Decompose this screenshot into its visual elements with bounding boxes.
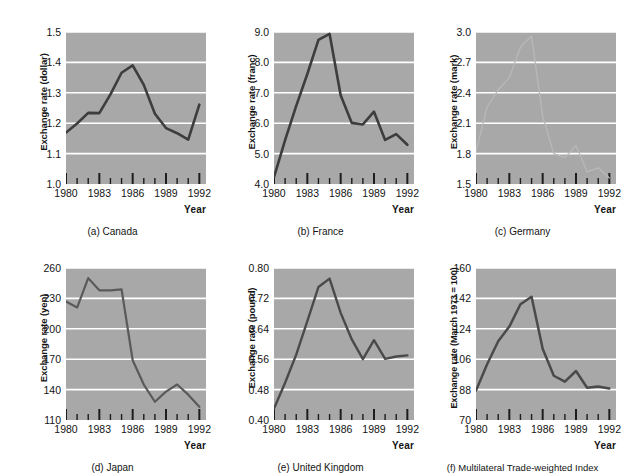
chart-canvas	[274, 268, 414, 420]
y-tick-label: 0.64	[249, 324, 269, 334]
x-axis-label: Year	[274, 440, 414, 451]
y-tick-labels: 4.05.06.07.08.09.0	[216, 32, 272, 184]
data-series-line	[66, 278, 199, 407]
chart-canvas	[274, 32, 414, 184]
panel-caption: (f) Multilateral Trade-weighted Index	[418, 462, 627, 474]
x-tick-label: 1992	[598, 423, 621, 435]
x-tick-label: 1992	[396, 187, 419, 199]
y-tick-labels: 1.51.82.12.42.73.0	[418, 32, 474, 184]
y-tick-label: 2.7	[456, 57, 471, 67]
x-tick-label: 1980	[464, 187, 487, 199]
y-tick-label: 0.48	[249, 385, 269, 395]
x-tick-label: 1980	[262, 187, 285, 199]
plot-area	[476, 268, 616, 420]
y-tick-label: 140	[43, 385, 61, 395]
x-tick-label: 1989	[154, 187, 177, 199]
data-series-line	[476, 36, 609, 178]
y-tick-labels: 1.01.11.21.31.41.5	[8, 32, 64, 184]
x-tick-label: 1983	[296, 423, 319, 435]
x-tick-label: 1983	[88, 423, 111, 435]
x-tick-label: 1989	[362, 187, 385, 199]
chart-panel-france: Exchange rate (franc)4.05.06.07.08.09.01…	[216, 4, 425, 242]
plot-area	[274, 268, 414, 420]
x-axis-label: Year	[476, 440, 616, 451]
y-tick-labels: 110140170200230260	[8, 268, 64, 420]
chart-canvas	[476, 268, 616, 420]
x-tick-label: 1989	[154, 423, 177, 435]
y-tick-label: 0.80	[249, 263, 269, 273]
x-tick-labels: 19801983198619891992	[274, 187, 414, 201]
y-tick-label: 2.4	[456, 88, 471, 98]
x-axis-label: Year	[274, 204, 414, 215]
x-tick-label: 1986	[121, 423, 144, 435]
y-tick-label: 230	[43, 293, 61, 303]
panel-caption: (b) France	[216, 226, 425, 238]
x-tick-label: 1983	[498, 187, 521, 199]
y-tick-label: 1.2	[46, 118, 61, 128]
panel-caption: (a) Canada	[8, 226, 217, 238]
chart-panel-germany: Exchange rate (mark)1.51.82.12.42.73.019…	[418, 4, 627, 242]
x-tick-label: 1986	[531, 187, 554, 199]
y-tick-label: 1.4	[46, 57, 61, 67]
y-tick-label: 88	[459, 385, 471, 395]
y-tick-label: 5.0	[254, 149, 269, 159]
y-tick-label: 7.0	[254, 88, 269, 98]
x-tick-labels: 19801983198619891992	[274, 423, 414, 437]
y-tick-label: 1.1	[46, 149, 61, 159]
chart-panel-canada: Exchange rate (dollar)1.01.11.21.31.41.5…	[8, 4, 217, 242]
panel-caption: (c) Germany	[418, 226, 627, 238]
y-tick-label: 142	[453, 293, 471, 303]
y-tick-label: 124	[453, 324, 471, 334]
chart-canvas	[476, 32, 616, 184]
y-tick-label: 6.0	[254, 118, 269, 128]
data-series-line	[66, 65, 199, 139]
panel-caption: (e) United Kingdom	[216, 462, 425, 474]
y-tick-labels: 7088106124142160	[418, 268, 474, 420]
x-tick-label: 1992	[396, 423, 419, 435]
y-tick-label: 1.8	[456, 149, 471, 159]
x-tick-label: 1989	[564, 423, 587, 435]
y-tick-label: 200	[43, 324, 61, 334]
x-tick-labels: 19801983198619891992	[66, 423, 206, 437]
x-tick-label: 1989	[564, 187, 587, 199]
y-tick-label: 0.56	[249, 354, 269, 364]
x-tick-label: 1992	[188, 423, 211, 435]
chart-panel-united-kingdom: Exchange rate (pound)0.400.480.560.640.7…	[216, 240, 425, 476]
x-tick-label: 1980	[54, 423, 77, 435]
x-tick-label: 1983	[296, 187, 319, 199]
x-tick-label: 1992	[188, 187, 211, 199]
y-tick-label: 1.3	[46, 88, 61, 98]
exchange-rate-figure: Exchange rate (dollar)1.01.11.21.31.41.5…	[0, 0, 627, 476]
x-tick-label: 1983	[498, 423, 521, 435]
y-tick-label: 0.72	[249, 293, 269, 303]
y-tick-label: 260	[43, 263, 61, 273]
chart-panel-multilateral-trade-weighted-index: Exchange rate (March 1973 = 100)70881061…	[418, 240, 627, 476]
data-series-line	[476, 297, 609, 391]
y-tick-label: 9.0	[254, 27, 269, 37]
y-tick-label: 170	[43, 354, 61, 364]
y-tick-label: 106	[453, 354, 471, 364]
x-tick-labels: 19801983198619891992	[476, 187, 616, 201]
chart-canvas	[66, 268, 206, 420]
x-tick-label: 1992	[598, 187, 621, 199]
x-tick-label: 1986	[531, 423, 554, 435]
x-tick-label: 1986	[329, 187, 352, 199]
data-series-line	[274, 34, 407, 177]
panel-caption: (d) Japan	[8, 462, 217, 474]
y-tick-labels: 0.400.480.560.640.720.80	[216, 268, 272, 420]
chart-panel-japan: Exchange rate (yen)110140170200230260198…	[8, 240, 217, 476]
plot-area	[66, 32, 206, 184]
x-axis-label: Year	[66, 440, 206, 451]
x-tick-label: 1983	[88, 187, 111, 199]
x-axis-label: Year	[66, 204, 206, 215]
plot-area	[476, 32, 616, 184]
y-tick-label: 1.5	[46, 27, 61, 37]
x-tick-label: 1989	[362, 423, 385, 435]
plot-area	[274, 32, 414, 184]
x-tick-label: 1980	[262, 423, 285, 435]
x-tick-label: 1980	[464, 423, 487, 435]
x-tick-labels: 19801983198619891992	[476, 423, 616, 437]
y-tick-label: 3.0	[456, 27, 471, 37]
y-tick-label: 160	[453, 263, 471, 273]
plot-area	[66, 268, 206, 420]
